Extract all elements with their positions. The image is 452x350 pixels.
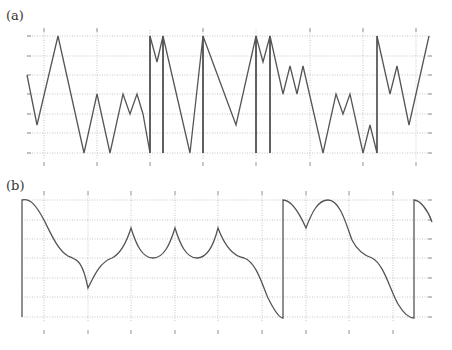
panel-a: (a) <box>6 8 432 166</box>
panel-b-grid <box>22 195 432 322</box>
panel-b: (b) <box>6 178 432 334</box>
panel-b-waveform <box>22 200 432 318</box>
panel-a-jumps <box>150 36 377 153</box>
panel-a-ticks <box>27 28 432 166</box>
panel-a-label: (a) <box>6 8 24 23</box>
panel-b-ticks <box>44 191 432 334</box>
panel-a-waveform <box>27 36 429 153</box>
panel-a-grid <box>27 30 432 160</box>
panel-b-label: (b) <box>6 178 24 193</box>
figure-canvas: (a) <box>0 0 452 350</box>
